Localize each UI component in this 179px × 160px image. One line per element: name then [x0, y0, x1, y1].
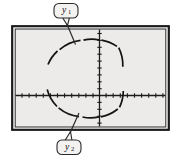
calculator-figure: y 1 y 2: [0, 0, 179, 160]
callout-y1-label: y: [61, 5, 67, 15]
calculator-screen-graphic: y 1 y 2: [0, 0, 179, 160]
callout-y1-subscript: 1: [68, 8, 71, 15]
calculator-screen-area: [15, 29, 166, 127]
x-axis-ticks: [22, 93, 163, 97]
callout-y2-subscript: 2: [71, 145, 74, 152]
callout-y2-label: y: [64, 142, 70, 152]
